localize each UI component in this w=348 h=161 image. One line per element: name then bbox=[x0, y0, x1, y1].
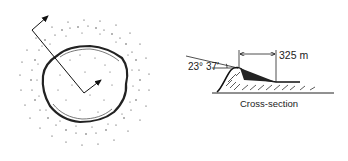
direction-arrow-long bbox=[32, 30, 84, 93]
direction-arrow-short bbox=[84, 80, 101, 93]
cross-section-caption: Cross-section bbox=[240, 98, 298, 109]
width-dimension-label: 325 m bbox=[279, 49, 308, 61]
angle-label: 23° 37′ bbox=[188, 61, 219, 72]
figure-canvas bbox=[0, 0, 348, 161]
